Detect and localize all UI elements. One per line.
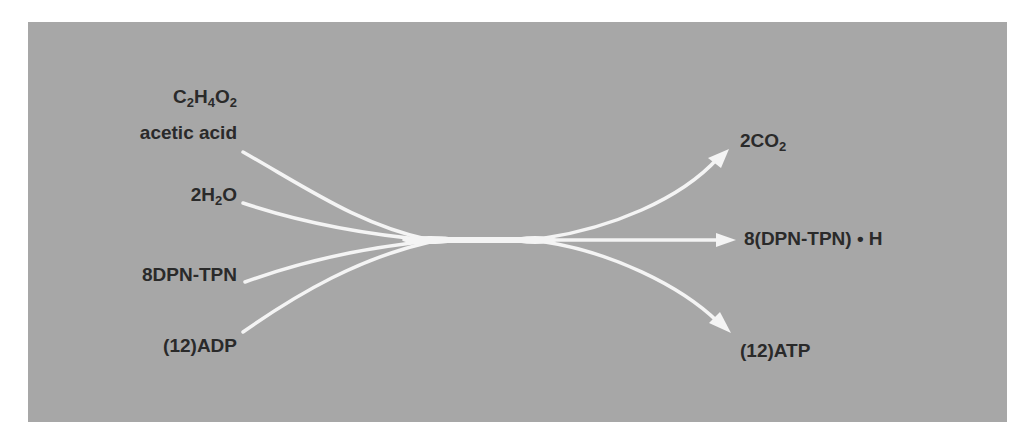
input-curve-water bbox=[243, 203, 430, 240]
output-label-dpn-tpn-h: 8(DPN-TPN) • H bbox=[744, 228, 883, 250]
input-label-water: 2H2O bbox=[191, 184, 237, 206]
output-label-atp: (12)ATP bbox=[740, 340, 810, 362]
input-label-dpn-tpn: 8DPN-TPN bbox=[142, 264, 237, 286]
input-label-acetic-acid-name: acetic acid bbox=[140, 122, 237, 144]
reaction-flow-arrows bbox=[0, 0, 1035, 432]
output-curve-co2 bbox=[545, 158, 718, 238]
input-label-adp: (12)ADP bbox=[163, 335, 237, 357]
output-label-co2: 2CO2 bbox=[740, 130, 786, 152]
input-label-acetic-acid-formula: C2H4O2 bbox=[173, 86, 237, 108]
output-curve-atp bbox=[545, 242, 718, 322]
arrowhead-dpn-tpn-h bbox=[716, 233, 736, 247]
